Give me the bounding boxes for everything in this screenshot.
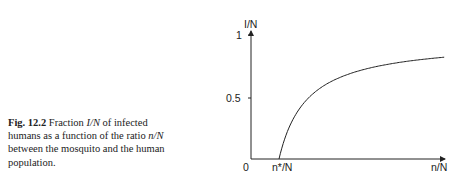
chart: I/N 1 0.5 0 n*/N n/N — [0, 0, 470, 191]
origin-label: 0 — [243, 161, 249, 173]
x-axis-label: n/N — [431, 161, 447, 173]
threshold-label: n*/N — [272, 161, 292, 173]
y-tick-label-half: 0.5 — [226, 92, 241, 104]
y-axis-label: I/N — [244, 18, 257, 30]
y-tick-label-one: 1 — [236, 29, 242, 41]
data-curve — [279, 57, 444, 159]
